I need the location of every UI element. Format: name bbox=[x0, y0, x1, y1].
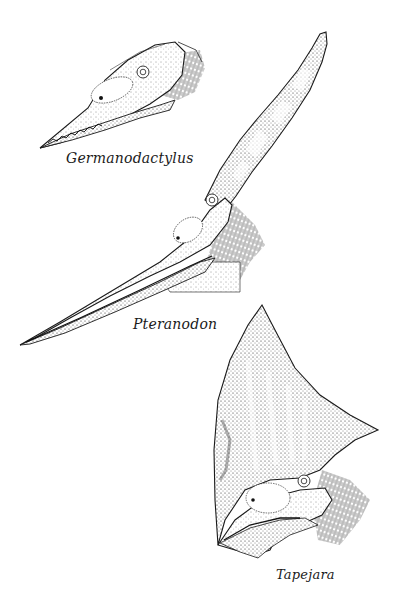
caption-pteranodon: Pteranodon bbox=[133, 316, 217, 332]
germanodactylus-head bbox=[40, 42, 205, 148]
illustration-plate: Germanodactylus Pteranodon Tapejara bbox=[0, 0, 406, 603]
pterosaur-heads-drawing bbox=[0, 0, 406, 603]
caption-tapejara: Tapejara bbox=[276, 567, 335, 582]
tapejara-head bbox=[214, 305, 378, 558]
caption-germanodactylus: Germanodactylus bbox=[66, 150, 194, 166]
